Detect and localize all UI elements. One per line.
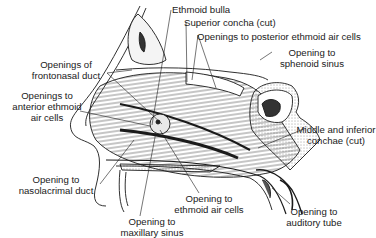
ethmoid-bulla-shape [150,114,170,134]
label-opening-nasolacrimal-duct: Opening to nasolacrimal duct [10,174,102,196]
frontal-sinus [128,14,166,65]
label-openings-anterior-ethmoid: Openings to anterior ethmoid air cells [6,90,88,123]
label-middle-inferior-conchae: Middle and inferior conchae (cut) [286,124,376,146]
label-openings-frontonasal-duct: Openings of frontonasal duct [20,59,112,81]
label-opening-auditory-tube: Opening to auditory tube [274,206,354,228]
label-opening-maxillary-sinus: Opening to maxillary sinus [112,216,192,238]
label-superior-concha: Superior concha (cut) [184,17,276,28]
label-opening-sphenoid-sinus: Opening to sphenoid sinus [274,47,350,69]
label-openings-posterior-ethmoid: Openings to posterior ethmoid air cells [197,31,361,42]
nasal-cavity-diagram: Ethmoid bulla Superior concha (cut) Open… [0,0,376,238]
label-opening-ethmoid-air-cells: Opening to ethmoid air cells [166,193,252,215]
label-ethmoid-bulla: Ethmoid bulla [172,4,230,15]
